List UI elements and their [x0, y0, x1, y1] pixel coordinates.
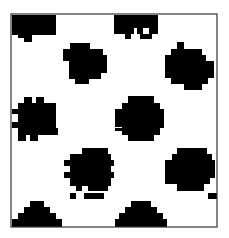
binary-pattern-image — [0, 0, 229, 238]
blob-pixel-block — [177, 148, 207, 154]
blob-pixel-block — [70, 193, 76, 199]
blob-pixel-block — [208, 193, 217, 199]
blob-pixel-block — [24, 97, 32, 103]
blob-pixel-block — [128, 96, 154, 103]
blob-pixel-block — [70, 154, 111, 160]
blob-pixel-block — [64, 160, 114, 166]
blob-pixel-block — [12, 109, 56, 114]
blob-pixel-block — [63, 55, 107, 61]
blob-pixel-block — [30, 135, 38, 141]
blob-pixel-block — [75, 79, 89, 84]
blob-pixel-block — [165, 160, 215, 172]
blob-pixel-block — [137, 28, 143, 34]
blob-pixel-block — [70, 166, 111, 172]
blob-pixel-block — [131, 201, 151, 207]
blob-pixel-block — [114, 15, 158, 28]
blob-top-center-lower — [70, 193, 104, 199]
blob-pixel-block — [119, 213, 163, 219]
blob-pixel-block — [63, 49, 103, 55]
blob-pixel-block — [122, 123, 164, 128]
blob-pixel-block — [177, 184, 204, 191]
blob-mid-left — [12, 97, 58, 141]
blob-pixel-block — [172, 154, 212, 160]
blob-pixel-block — [125, 34, 131, 39]
blob-pixel-block — [18, 114, 56, 122]
blob-pixel-block — [122, 103, 160, 109]
blob-pixel-block — [18, 135, 26, 141]
blob-pixel-block — [18, 128, 58, 135]
blob-pixel-block — [115, 109, 164, 123]
blob-pixel-block — [36, 97, 44, 103]
blob-pixel-block — [12, 122, 56, 128]
blob-pixel-block — [128, 135, 154, 141]
blob-pixel-block — [114, 28, 134, 34]
blob-pixel-block — [115, 123, 123, 127]
blob-pixel-block — [24, 207, 50, 213]
blob-pixel-block — [115, 219, 167, 227]
blob-bottom-right-edge — [208, 193, 217, 199]
blob-pixel-block — [172, 172, 215, 178]
blob-pixel-block — [30, 201, 44, 207]
blob-pixel-block — [140, 34, 152, 39]
blob-pixel-block — [18, 35, 32, 38]
blob-pixel-block — [64, 172, 114, 178]
blob-pixel-block — [149, 28, 158, 34]
blob-pixel-block — [76, 186, 82, 191]
blob-pixel-block — [18, 103, 56, 109]
blob-pixel-block — [84, 193, 104, 199]
blob-pixel-block — [82, 148, 108, 154]
blob-pixel-block — [165, 55, 206, 61]
blob-pixel-block — [171, 78, 208, 84]
blob-pixel-block — [172, 178, 210, 184]
blob-pixel-block — [69, 73, 101, 79]
blob-pixel-block — [122, 128, 160, 135]
blob-lower-mid — [64, 148, 114, 191]
blob-upper-mid — [63, 43, 107, 84]
blob-pixel-block — [12, 15, 56, 35]
blob-pixel-block — [12, 219, 62, 227]
blob-pixel-block — [70, 178, 111, 186]
blob-pixel-block — [70, 43, 90, 49]
blob-pixel-block — [69, 61, 107, 73]
blob-pixel-block — [24, 38, 32, 42]
blob-pixel-block — [165, 178, 173, 184]
blob-pixel-block — [88, 186, 108, 191]
blob-pixel-block — [177, 42, 184, 49]
blob-pixel-block — [184, 84, 202, 90]
blob-pixel-block — [125, 207, 157, 213]
blob-pixel-block — [115, 128, 123, 131]
blob-pixel-block — [18, 213, 56, 219]
blob-pixel-block — [171, 49, 202, 55]
blob-pixel-block — [165, 61, 214, 78]
